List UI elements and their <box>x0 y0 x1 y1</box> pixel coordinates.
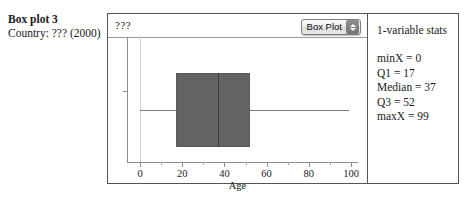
median-line <box>218 73 219 147</box>
caption-subtitle: Country: ??? (2000) <box>8 26 108 40</box>
stat-row-0: minX = 0 <box>377 51 458 66</box>
stat-row-4: maxX = 99 <box>377 109 458 124</box>
chevron-down-icon <box>350 28 356 31</box>
plot-pane[interactable]: ??? 020406080100 Age Box Plot <box>108 14 367 183</box>
box-rectangle[interactable] <box>176 73 250 147</box>
stat-row-2: Median = 37 <box>377 80 458 95</box>
chevron-up-icon <box>350 24 356 27</box>
stepper-arrows-icon[interactable] <box>346 20 359 34</box>
figure-frame: ??? 020406080100 Age Box Plot 1-variable… <box>107 13 459 184</box>
plot-type-label: Box Plot <box>307 20 346 34</box>
stats-pane: 1-variable stats minX = 0Q1 = 17Median =… <box>368 14 458 183</box>
stat-row-1: Q1 = 17 <box>377 66 458 81</box>
figure-caption: Box plot 3 Country: ??? (2000) <box>8 12 108 40</box>
stats-list: minX = 0Q1 = 17Median = 37Q3 = 52maxX = … <box>377 51 458 124</box>
caption-title: Box plot 3 <box>8 12 108 26</box>
boxplot-glyph[interactable] <box>108 14 367 185</box>
stat-row-3: Q3 = 52 <box>377 95 458 110</box>
plot-type-dropdown[interactable]: Box Plot <box>301 19 361 35</box>
stats-title: 1-variable stats <box>377 23 458 37</box>
